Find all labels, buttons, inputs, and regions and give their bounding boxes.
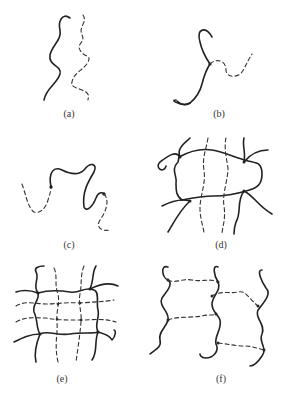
panel-b-drawing xyxy=(174,30,252,105)
panel-label-f: (f) xyxy=(216,373,226,384)
panel-a-drawing xyxy=(44,15,89,100)
panel-f-drawing xyxy=(150,267,268,366)
panel-c-drawing xyxy=(22,165,110,231)
panel-e-drawing xyxy=(14,266,118,362)
panel-label-d: (d) xyxy=(215,239,227,250)
panel-label-a: (a) xyxy=(63,108,74,119)
panel-d-drawing xyxy=(158,138,272,234)
panel-label-c: (c) xyxy=(63,239,74,250)
panel-label-e: (e) xyxy=(56,373,67,384)
polymer-architecture-diagram xyxy=(0,0,292,398)
panel-label-b: (b) xyxy=(213,108,225,119)
